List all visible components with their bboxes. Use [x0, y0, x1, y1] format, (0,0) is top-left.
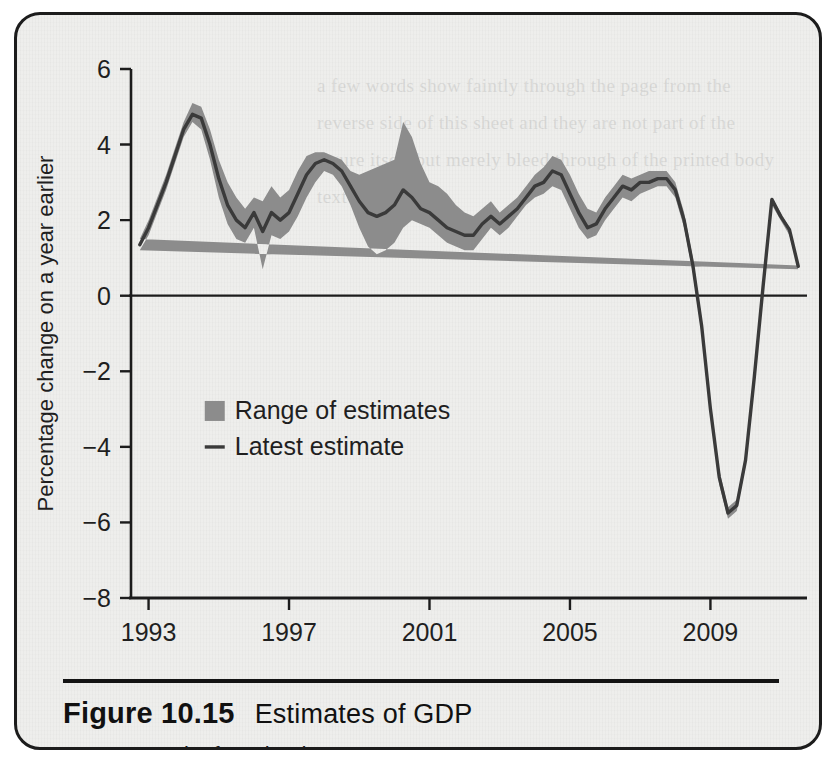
gdp-estimates-chart: 6420−2−4−6−8 19931997200120052009 Percen… [17, 15, 822, 655]
y-tick-label: 4 [97, 131, 111, 159]
y-axis-title: Percentage change on a year earlier [33, 156, 58, 512]
source-label: Source: [63, 742, 139, 750]
legend-label: Latest estimate [235, 432, 405, 460]
figure-title: Estimates of GDP [255, 699, 473, 730]
x-tick-label: 2005 [542, 618, 598, 646]
x-tick-label: 2001 [402, 618, 458, 646]
figure-number: Figure 10.15 [63, 697, 235, 730]
y-tick-label: 2 [97, 206, 111, 234]
legend-swatch-range [205, 401, 225, 421]
y-tick-label: −6 [82, 508, 111, 536]
x-tick-label: 2009 [683, 618, 739, 646]
chart-legend: Range of estimatesLatest estimate [205, 396, 450, 460]
figure-container: a few words show faintly through the pag… [14, 12, 822, 750]
y-tick-label: −8 [82, 584, 111, 612]
x-tick-label: 1993 [121, 618, 177, 646]
y-axis-ticks: 6420−2−4−6−8 [82, 55, 131, 612]
x-axis-ticks: 19931997200120052009 [121, 598, 738, 646]
y-tick-label: 6 [97, 55, 111, 83]
x-tick-label: 1997 [261, 618, 317, 646]
axes [129, 69, 807, 598]
figure-source: Source: Bank of England. [63, 742, 779, 750]
y-tick-label: −4 [82, 433, 111, 461]
y-tick-label: −2 [82, 357, 111, 385]
y-tick-label: 0 [97, 282, 111, 310]
source-value: Bank of England. [145, 742, 313, 750]
figure-caption: Figure 10.15 Estimates of GDP Source: Ba… [63, 679, 779, 750]
legend-label: Range of estimates [235, 396, 450, 424]
caption-divider [63, 679, 779, 683]
chart-plot-area: 6420−2−4−6−8 19931997200120052009 Percen… [17, 15, 822, 655]
